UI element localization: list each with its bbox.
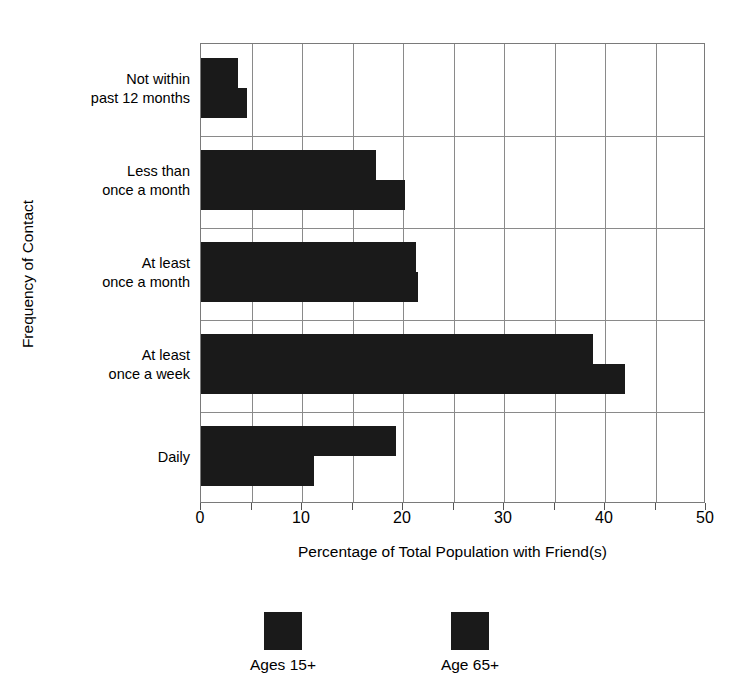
legend-item: Ages 15+ <box>198 612 368 674</box>
y-category-label-line: once a month <box>30 181 190 200</box>
x-tick-label: 30 <box>483 509 523 527</box>
bar <box>201 334 593 364</box>
bar-group <box>201 320 704 412</box>
bar <box>201 58 238 88</box>
bar <box>201 426 396 456</box>
x-tick-label: 40 <box>584 509 624 527</box>
y-category-label: Less thanonce a month <box>30 162 190 200</box>
bar <box>201 242 416 272</box>
x-tick-mark <box>554 503 555 510</box>
y-category-label: At leastonce a month <box>30 254 190 292</box>
y-category-label: Not withinpast 12 months <box>30 70 190 108</box>
x-tick-mark <box>352 503 353 510</box>
bar-group <box>201 136 704 228</box>
y-category-label-line: At least <box>30 254 190 273</box>
x-tick-label: 10 <box>281 509 321 527</box>
bar-group <box>201 412 704 504</box>
legend-swatch <box>451 612 489 650</box>
legend-label: Ages 15+ <box>198 656 368 674</box>
x-tick-mark <box>655 503 656 510</box>
x-tick-mark <box>453 503 454 510</box>
x-tick-label: 20 <box>382 509 422 527</box>
bar-group <box>201 228 704 320</box>
bar <box>201 272 418 302</box>
x-axis-title: Percentage of Total Population with Frie… <box>200 543 705 561</box>
bar-group <box>201 44 704 136</box>
bar <box>201 88 247 118</box>
bar <box>201 150 376 180</box>
x-tick-label: 0 <box>180 509 220 527</box>
legend-swatch <box>264 612 302 650</box>
bar <box>201 364 625 394</box>
bar <box>201 180 405 210</box>
y-category-label: Daily <box>30 448 190 467</box>
y-category-label-line: once a week <box>30 365 190 384</box>
y-category-label-line: Less than <box>30 162 190 181</box>
x-tick-mark <box>251 503 252 510</box>
legend-item: Age 65+ <box>385 612 555 674</box>
legend-label: Age 65+ <box>385 656 555 674</box>
bar-chart: Not withinpast 12 monthsLess thanonce a … <box>0 0 751 687</box>
y-axis-title: Frequency of Contact <box>19 174 37 374</box>
y-category-label-line: past 12 months <box>30 89 190 108</box>
bar <box>201 456 314 486</box>
y-category-label-line: once a month <box>30 273 190 292</box>
y-category-label: At leastonce a week <box>30 346 190 384</box>
y-category-label-line: At least <box>30 346 190 365</box>
chart-legend: Ages 15+Age 65+ <box>0 612 751 687</box>
y-category-label-line: Not within <box>30 70 190 89</box>
y-category-label-line: Daily <box>30 448 190 467</box>
plot-area <box>200 43 705 503</box>
x-tick-label: 50 <box>685 509 725 527</box>
